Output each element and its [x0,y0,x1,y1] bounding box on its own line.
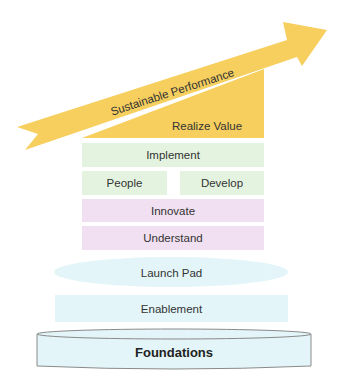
realize-value-label-wrap: Realize Value [150,116,264,134]
launch-pad-label: Launch Pad [141,267,202,279]
develop-block: Develop [180,171,264,195]
launch-pad-layer: Launch Pad [55,258,288,287]
diagram-canvas [0,0,342,386]
people-label: People [107,177,143,189]
develop-label: Develop [201,177,243,189]
foundations-label: Foundations [135,345,213,360]
enablement-layer: Enablement [55,295,288,322]
foundations-layer: Foundations [37,339,311,366]
realize-value-label: Realize Value [172,120,242,132]
implement-layer: Implement [82,143,264,167]
innovate-layer: Innovate [82,199,264,222]
people-block: People [82,171,167,195]
enablement-label: Enablement [141,303,202,315]
understand-layer: Understand [82,226,264,250]
understand-label: Understand [143,232,202,244]
innovate-label: Innovate [151,205,195,217]
implement-label: Implement [146,149,200,161]
